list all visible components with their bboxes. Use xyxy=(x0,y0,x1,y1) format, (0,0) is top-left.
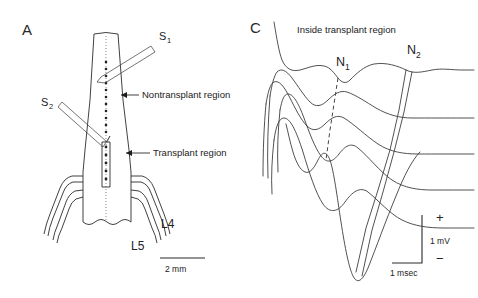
s1-subscript: 1 xyxy=(167,36,171,45)
transplant-region-label: Transplant region xyxy=(153,147,227,158)
panel-c-title: Inside transplant region xyxy=(297,24,396,35)
voltage-scale-label: 1 mV xyxy=(430,236,450,246)
figure-canvas: A xyxy=(0,0,478,298)
panel-a-scale-label: 2 mm xyxy=(165,264,186,274)
nontransplant-region-label: Nontransplant region xyxy=(142,89,230,100)
n1-subscript: 1 xyxy=(345,62,350,72)
s2-label: S xyxy=(41,96,48,108)
polarity-negative: − xyxy=(436,251,444,266)
panel-c-letter: C xyxy=(250,19,261,36)
time-scale-label: 1 msec xyxy=(390,268,418,278)
n2-subscript: 2 xyxy=(416,50,421,60)
panel-a-letter: A xyxy=(22,21,32,38)
nerve-label-l4: L4 xyxy=(161,217,175,231)
s1-label: S xyxy=(159,30,166,42)
nerve-label-l5: L5 xyxy=(131,239,145,253)
n1-label: N xyxy=(336,55,345,69)
s2-subscript: 2 xyxy=(49,102,53,111)
polarity-positive: + xyxy=(436,210,444,225)
n2-label: N xyxy=(407,43,416,57)
